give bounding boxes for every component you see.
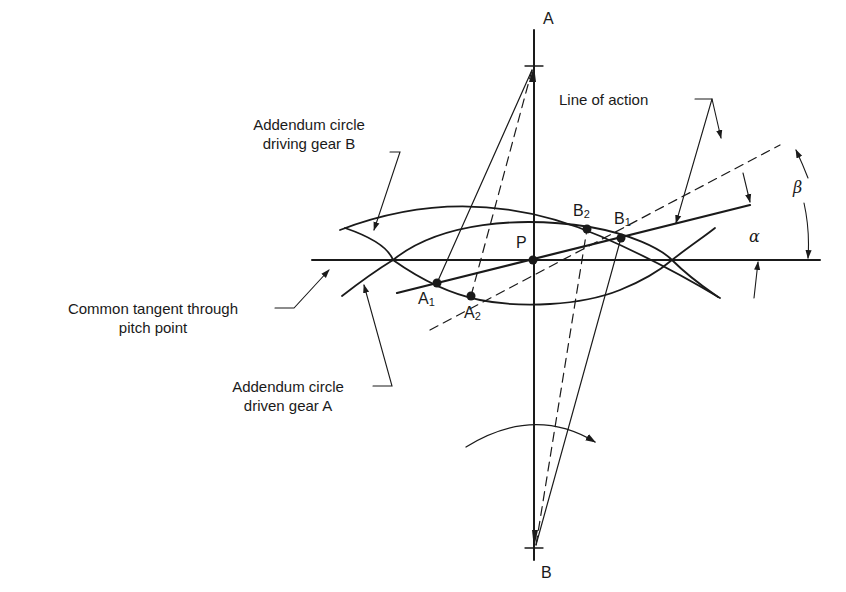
leader-line-of-action (695, 99, 721, 138)
point-b2 (583, 225, 592, 234)
point-a1-label: A1 (418, 289, 435, 310)
rotation-arrow (466, 425, 595, 447)
point-b1-label: B1 (614, 209, 631, 230)
leader-line-of-action-2 (676, 99, 712, 223)
label-common-tangent: Common tangent through pitch point (32, 299, 274, 337)
point-a2 (467, 292, 476, 301)
alpha-arrow-top (743, 173, 750, 202)
beta-arc-top (796, 150, 808, 178)
point-a2-label: A2 (464, 303, 481, 324)
alpha-arrow-bottom (754, 262, 758, 298)
point-a1 (433, 279, 442, 288)
center-b-label: B (541, 563, 552, 582)
pitch-point-label: P (516, 233, 527, 252)
leader-addendum-driving (374, 152, 400, 230)
label-addendum-driving-gear-b: Addendum circle driving gear B (228, 115, 390, 153)
angle-alpha-label: α (749, 227, 760, 246)
point-b2-label: B2 (573, 201, 590, 222)
label-line-of-action: Line of action (559, 90, 648, 109)
leader-addendum-driven (364, 285, 392, 386)
addendum-arc-driven-a (342, 231, 600, 296)
point-p (529, 256, 538, 265)
beta-arc-bottom (804, 203, 809, 258)
dashed-action-line (430, 145, 780, 330)
angle-beta-label: β (793, 178, 802, 197)
leader-common-tangent (275, 270, 329, 308)
point-b1 (617, 234, 626, 243)
label-addendum-driven-gear-a: Addendum circle driven gear A (203, 377, 373, 415)
center-a-label: A (543, 9, 554, 28)
